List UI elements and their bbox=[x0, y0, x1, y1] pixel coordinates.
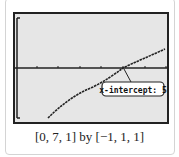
graph-plot: x-intercept: 5 bbox=[15, 14, 167, 122]
x-intercept-label: x-intercept: 5 bbox=[99, 85, 167, 95]
window-caption: [0, 7, 1] by [−1, 1, 1] bbox=[0, 129, 179, 145]
calculator-screen: x-intercept: 5 bbox=[13, 12, 169, 124]
